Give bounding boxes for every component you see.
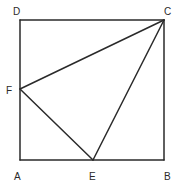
segment-CF (20, 20, 164, 89)
label-C: C (164, 6, 171, 17)
label-B: B (164, 171, 171, 182)
label-A: A (14, 171, 21, 182)
geometry-figure: D C F A E B (0, 0, 180, 185)
segment-EF (20, 89, 93, 160)
label-D: D (13, 6, 20, 17)
segment-CE (93, 20, 164, 160)
label-E: E (89, 171, 96, 182)
label-F: F (6, 85, 12, 96)
